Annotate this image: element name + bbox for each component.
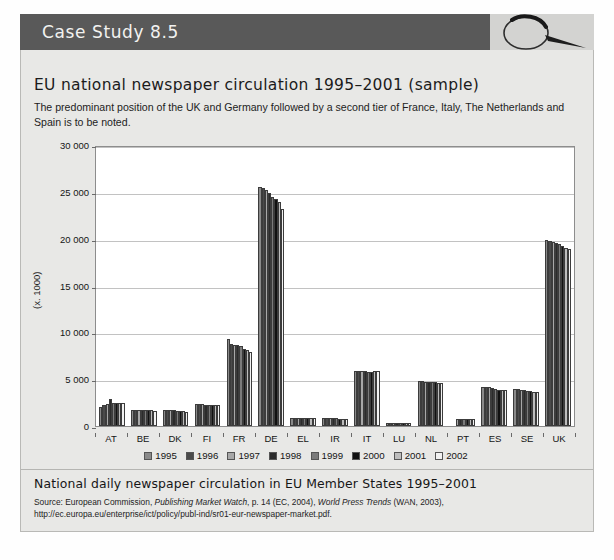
- legend-swatch: [394, 452, 402, 460]
- bar-group: [446, 147, 478, 426]
- x-tick-label: IT: [351, 433, 383, 447]
- legend-item: 2001: [394, 450, 427, 461]
- bar: [504, 390, 507, 426]
- x-tick-label: FI: [191, 433, 223, 447]
- y-tick-label: 20 000: [37, 234, 89, 245]
- legend-swatch: [186, 452, 194, 460]
- legend-item: 2000: [352, 450, 385, 461]
- x-tick-mark: [95, 433, 96, 437]
- x-tick-label: NL: [415, 433, 447, 447]
- y-tick-label: 10 000: [37, 327, 89, 338]
- bar-group: [223, 147, 255, 426]
- case-study-page: Case Study 8.5 EU national newspaper cir…: [0, 0, 614, 560]
- x-tick-label: UK: [543, 433, 575, 447]
- bar: [217, 405, 220, 426]
- bar-group: [319, 147, 351, 426]
- x-tick-label: AT: [95, 433, 127, 447]
- bar-group: [415, 147, 447, 426]
- x-tick-label: ES: [479, 433, 511, 447]
- legend-label: 1995: [155, 450, 177, 461]
- magnifier-icon: [490, 14, 594, 50]
- legend-label: 2002: [446, 450, 468, 461]
- header-icon-block: [490, 14, 594, 50]
- x-tick-label: LU: [383, 433, 415, 447]
- bar-group: [510, 147, 542, 426]
- bar-group: [478, 147, 510, 426]
- bar: [185, 412, 188, 426]
- bar: [440, 383, 443, 426]
- x-tick-mark: [223, 433, 224, 437]
- bar: [408, 423, 411, 426]
- legend-swatch: [435, 452, 443, 460]
- bar: [249, 352, 252, 426]
- bar: [313, 418, 316, 426]
- bar-group: [96, 147, 128, 426]
- bar-group: [287, 147, 319, 426]
- chart-legend: 19951996199719981999200020012002: [33, 450, 579, 461]
- legend-item: 1996: [186, 450, 219, 461]
- bar: [281, 209, 284, 426]
- legend-label: 2001: [405, 450, 427, 461]
- x-tick-label: DE: [255, 433, 287, 447]
- legend-label: 2000: [363, 450, 385, 461]
- legend-swatch: [311, 452, 319, 460]
- source-mid: , p. 14 (EC, 2004),: [247, 497, 318, 507]
- y-tick-label: 15 000: [37, 281, 89, 292]
- plot-area: [95, 146, 575, 427]
- footer-divider: [21, 469, 593, 470]
- x-tick-label: FR: [223, 433, 255, 447]
- x-tick-mark: [447, 433, 448, 437]
- bar: [121, 403, 124, 426]
- y-tick-label: 0: [37, 421, 89, 432]
- figure-source: Source: European Commission, Publishing …: [34, 497, 584, 520]
- y-tick-label: 25 000: [37, 187, 89, 198]
- x-tick-label: SE: [511, 433, 543, 447]
- legend-item: 1995: [144, 450, 177, 461]
- legend-item: 2002: [435, 450, 468, 461]
- page-title: EU national newspaper circulation 1995–2…: [34, 76, 479, 94]
- bar-group: [128, 147, 160, 426]
- source-italic-publication-2: World Press Trends: [318, 497, 391, 507]
- x-tick-label: EL: [287, 433, 319, 447]
- x-tick-mark: [287, 433, 288, 437]
- legend-swatch: [352, 452, 360, 460]
- x-tick-label: PT: [447, 433, 479, 447]
- x-tick-mark: [511, 433, 512, 437]
- legend-item: 1998: [269, 450, 302, 461]
- x-tick-label: DK: [159, 433, 191, 447]
- x-tick-mark: [159, 433, 160, 437]
- bar: [153, 411, 156, 426]
- x-tick-mark: [319, 433, 320, 437]
- x-tick-mark: [191, 433, 192, 437]
- bar-group: [255, 147, 287, 426]
- x-tick-mark: [255, 433, 256, 437]
- legend-swatch: [144, 452, 152, 460]
- legend-label: 1999: [322, 450, 344, 461]
- source-italic-publication-1: Publishing Market Watch: [155, 497, 247, 507]
- x-tick-mark: [543, 433, 544, 437]
- case-study-header-label: Case Study 8.5: [42, 22, 179, 42]
- x-tick-label: BE: [127, 433, 159, 447]
- bar: [536, 392, 539, 426]
- bar-group: [351, 147, 383, 426]
- legend-label: 1998: [280, 450, 302, 461]
- bar: [568, 249, 571, 426]
- bar-groups: [96, 147, 574, 426]
- x-tick-mark: [383, 433, 384, 437]
- legend-label: 1997: [238, 450, 260, 461]
- y-tick-label: 5 000: [37, 374, 89, 385]
- legend-swatch: [227, 452, 235, 460]
- y-axis-tick-labels: 05 00010 00015 00020 00025 00030 000: [33, 141, 89, 427]
- x-tick-label: IR: [319, 433, 351, 447]
- bar: [345, 419, 348, 426]
- x-tick-mark: [415, 433, 416, 437]
- bar: [376, 371, 379, 426]
- bar: [472, 419, 475, 426]
- bar-group: [160, 147, 192, 426]
- bar-group: [192, 147, 224, 426]
- legend-swatch: [269, 452, 277, 460]
- bar-group: [542, 147, 574, 426]
- x-tick-mark: [127, 433, 128, 437]
- y-tick-mark: [92, 428, 96, 429]
- x-tick-mark: [351, 433, 352, 437]
